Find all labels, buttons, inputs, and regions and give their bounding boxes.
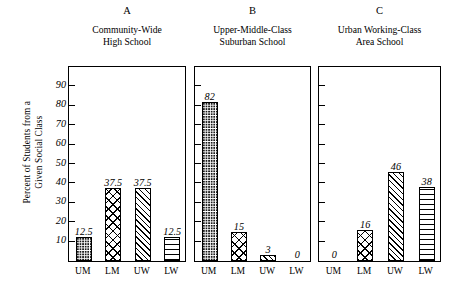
bar-value-label: 15	[234, 221, 244, 232]
bar-chart-figure: Percent of Students from a Given Social …	[0, 0, 451, 305]
x-axis-label-lm: LM	[349, 265, 380, 276]
y-axis-tick-label: 60	[56, 137, 66, 148]
bar-lm: 16	[357, 230, 373, 261]
bar-value-label: 3	[266, 244, 271, 255]
bar-value-label: 46	[391, 161, 401, 172]
bar-lw: 12.5	[164, 237, 180, 261]
x-axis-label-lm: LM	[98, 265, 128, 276]
x-axis-label-uw: UW	[127, 265, 157, 276]
y-axis-tick-label: 30	[56, 195, 66, 206]
panel-letter: A	[68, 5, 186, 16]
bar-value-label: 0	[332, 249, 337, 260]
panel-letter: C	[318, 5, 441, 16]
bar-value-label: 16	[360, 219, 370, 230]
panel-a: ACommunity-Wide High SchoolUMLMUWLW10203…	[68, 0, 186, 305]
y-axis-tick	[195, 85, 201, 86]
x-axis-label-um: UM	[194, 265, 223, 276]
y-axis-tick: 50	[69, 163, 75, 164]
y-axis-tick: 10	[69, 241, 75, 242]
bar-lw: 38	[419, 187, 435, 261]
y-axis-tick	[195, 241, 201, 242]
y-axis-tick	[195, 221, 201, 222]
y-axis-tick	[195, 144, 201, 145]
bar-value-label: 12.5	[75, 226, 93, 237]
y-axis-tick	[319, 182, 325, 183]
panel-c: CUrban Working-Class Area SchoolUMLMUWLW…	[318, 0, 441, 305]
x-axis-label-um: UM	[318, 265, 349, 276]
panel-title: Urban Working-Class Area School	[318, 24, 441, 49]
bar-value-label: 38	[422, 176, 432, 187]
x-axis-label-uw: UW	[253, 265, 282, 276]
x-axis-label-lw: LW	[410, 265, 441, 276]
bar-um: 12.5	[76, 237, 92, 261]
y-axis-tick-label: 80	[56, 98, 66, 109]
x-axis-label-um: UM	[68, 265, 98, 276]
y-axis-tick	[195, 182, 201, 183]
x-axis-label-lw: LW	[157, 265, 187, 276]
y-axis-tick-label: 40	[56, 176, 66, 187]
y-axis-tick: 60	[69, 144, 75, 145]
y-axis-tick: 80	[69, 105, 75, 106]
y-axis-tick: 30	[69, 202, 75, 203]
y-axis-tick-label: 20	[56, 215, 66, 226]
y-axis-tick	[319, 221, 325, 222]
panel-title: Community-Wide High School	[68, 24, 186, 49]
y-axis-title: Percent of Students from a Given Social …	[21, 47, 45, 257]
y-axis-tick	[319, 85, 325, 86]
y-axis-tick-label: 10	[56, 234, 66, 245]
bar-um: 82	[202, 102, 218, 261]
bar-value-label: 82	[205, 91, 215, 102]
y-axis-tick	[195, 105, 201, 106]
x-axis-label-lm: LM	[223, 265, 252, 276]
plot-area: 0164638	[318, 66, 441, 262]
y-axis-tick	[195, 163, 201, 164]
y-axis-tick	[195, 124, 201, 125]
y-axis-tick	[319, 144, 325, 145]
y-axis-tick	[319, 202, 325, 203]
y-axis-tick-label: 70	[56, 118, 66, 129]
bar-value-label: 37.5	[134, 177, 152, 188]
x-axis-label-lw: LW	[282, 265, 311, 276]
panel-letter: B	[194, 5, 311, 16]
y-axis-tick	[319, 124, 325, 125]
y-axis-tick	[319, 105, 325, 106]
panel-b: BUpper-Middle-Class Suburban SchoolUMLMU…	[194, 0, 311, 305]
bar-lm: 15	[231, 232, 247, 261]
bar-value-label: 37.5	[104, 177, 122, 188]
bar-lm: 37.5	[105, 188, 121, 261]
plot-area: 821530	[194, 66, 311, 262]
y-axis-tick-label: 50	[56, 157, 66, 168]
bar-uw: 3	[260, 255, 276, 261]
bar-value-label: 12.5	[163, 226, 181, 237]
y-axis-tick-label: 90	[56, 79, 66, 90]
panel-title: Upper-Middle-Class Suburban School	[194, 24, 311, 49]
x-axis-label-uw: UW	[380, 265, 411, 276]
y-axis-tick: 20	[69, 221, 75, 222]
y-axis-tick	[195, 202, 201, 203]
plot-area: 10203040506070809012.537.537.512.5	[68, 66, 186, 262]
bar-uw: 37.5	[135, 188, 151, 261]
y-axis-tick: 40	[69, 182, 75, 183]
y-axis-tick: 90	[69, 85, 75, 86]
y-axis-tick	[319, 163, 325, 164]
y-axis-tick	[319, 241, 325, 242]
bar-value-label: 0	[295, 249, 300, 260]
bar-uw: 46	[388, 172, 404, 261]
y-axis-tick: 70	[69, 124, 75, 125]
